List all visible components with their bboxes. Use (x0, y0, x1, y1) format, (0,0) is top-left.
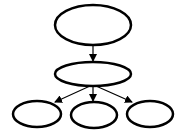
edge-middle-to-leaf-left (55, 86, 90, 102)
node-root (55, 5, 131, 45)
node-middle (55, 62, 131, 86)
node-leaf-right (127, 101, 173, 127)
edge-middle-to-leaf-right (96, 86, 132, 102)
node-leaf-center (71, 102, 117, 128)
tree-diagram (0, 0, 184, 139)
node-leaf-left (13, 101, 61, 127)
